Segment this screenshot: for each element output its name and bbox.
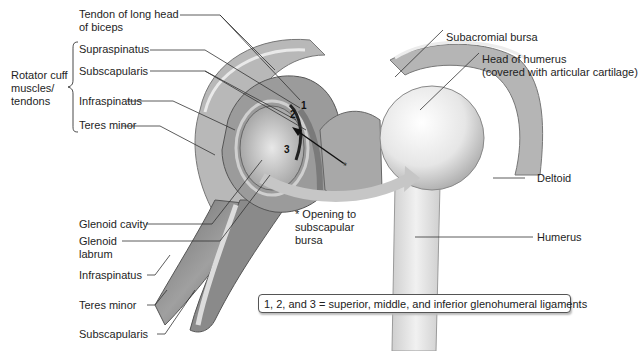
ligament-number-2: 2: [290, 109, 296, 120]
label-teres-minor-top: Teres minor: [79, 119, 136, 132]
label-line: * Opening to: [295, 208, 356, 221]
label-line: Head of humerus: [482, 53, 638, 66]
label-rotator-cuff-group: Rotator cuff muscles/ tendons: [11, 69, 68, 108]
label-line: (covered with articular cartilage): [482, 66, 638, 79]
label-line: bursa: [295, 234, 356, 247]
label-glenoid-cavity: Glenoid cavity: [79, 218, 148, 231]
label-subacromial-bursa: Subacromial bursa: [446, 31, 538, 44]
ligament-legend-box: 1, 2, and 3 = superior, middle, and infe…: [258, 294, 571, 313]
label-line: Glenoid: [79, 235, 117, 248]
label-head-of-humerus: Head of humerus (covered with articular …: [482, 53, 638, 79]
label-opening-subscapular-bursa: * Opening to subscapular bursa: [295, 208, 356, 247]
label-line: subscapular: [295, 221, 356, 234]
rotator-cuff-brace: [68, 42, 78, 132]
ligament-number-3: 3: [284, 144, 290, 155]
humerus-shaft: [392, 185, 440, 351]
label-glenoid-labrum: Glenoid labrum: [79, 235, 117, 261]
asterisk-marker: *: [343, 161, 347, 172]
ligament-number-1: 1: [301, 100, 307, 111]
label-supraspinatus: Supraspinatus: [79, 43, 149, 56]
label-teres-minor-bottom: Teres minor: [79, 299, 136, 312]
label-subscapularis-bottom: Subscapularis: [79, 328, 148, 341]
label-humerus: Humerus: [537, 231, 582, 244]
label-infraspinatus-top: Infraspinatus: [79, 95, 142, 108]
label-line: labrum: [79, 248, 117, 261]
label-infraspinatus-bottom: Infraspinatus: [79, 269, 142, 282]
label-line: Rotator cuff: [11, 69, 68, 82]
head-of-humerus-shape: [380, 86, 484, 190]
label-subscapularis-top: Subscapularis: [79, 65, 148, 78]
label-tendon-long-head-biceps: Tendon of long head of biceps: [79, 8, 179, 34]
label-line: muscles/: [11, 82, 68, 95]
label-deltoid: Deltoid: [537, 172, 571, 185]
label-line: of biceps: [79, 21, 179, 34]
label-line: Tendon of long head: [79, 8, 179, 21]
label-line: tendons: [11, 95, 68, 108]
